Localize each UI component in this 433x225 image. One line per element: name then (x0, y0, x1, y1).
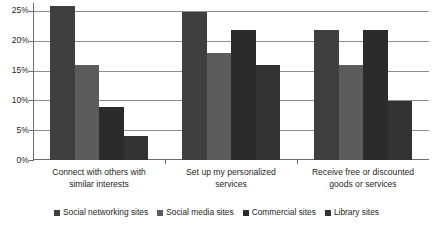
plot-area (33, 3, 429, 160)
x-axis-category-label-2-line-0: Receive free or discounted (297, 167, 429, 179)
y-tick-mark-0 (29, 160, 34, 161)
x-axis-category-label-1: Set up my personalized services (165, 167, 297, 190)
bar (388, 101, 413, 160)
y-tick-mark-10 (29, 100, 34, 101)
bar (231, 30, 256, 160)
x-axis-category-label-1-line-1: services (165, 179, 297, 191)
bar (314, 30, 339, 160)
bar (207, 53, 232, 160)
bar (363, 30, 388, 160)
y-axis-tick-15: 15% (0, 66, 29, 75)
y-axis-tick-25: 25% (0, 6, 29, 15)
x-axis-category-label-2: Receive free or discounted goods or serv… (297, 167, 429, 190)
y-tick-mark-15 (29, 71, 34, 72)
legend-item[interactable]: Commercial sites (243, 208, 316, 217)
legend-item-label: Commercial sites (252, 208, 316, 217)
bar (256, 65, 281, 160)
x-axis-group-separator (297, 160, 298, 164)
legend-item-label: Social media sites (166, 208, 234, 217)
y-axis-tick-5: 5% (0, 126, 29, 135)
bar (99, 107, 124, 160)
chart-legend: Social networking sitesSocial media site… (0, 208, 433, 217)
bar (182, 12, 207, 160)
legend-item-label: Social networking sites (63, 208, 148, 217)
y-axis-tick-20: 20% (0, 36, 29, 45)
legend-item-label: Library sites (334, 208, 379, 217)
gridline-25 (33, 11, 429, 12)
x-axis-category-label-2-line-1: goods or services (297, 179, 429, 191)
legend-swatch-icon (243, 210, 249, 216)
bar (50, 6, 75, 160)
bar (339, 65, 364, 160)
bar-chart: 25% 20% 15% 10% 5% 0% Connect with other… (0, 0, 433, 225)
legend-swatch-icon (325, 210, 331, 216)
y-axis-tick-0: 0% (0, 156, 29, 165)
x-axis-category-label-0: Connect with others with similar interes… (33, 167, 165, 190)
x-axis-category-label-0-line-1: similar interests (33, 179, 165, 191)
y-axis-tick-10: 10% (0, 96, 29, 105)
y-tick-mark-25 (29, 11, 34, 12)
x-axis-group-separator (165, 160, 166, 164)
bar (124, 136, 149, 160)
legend-swatch-icon (157, 210, 163, 216)
legend-item[interactable]: Social networking sites (54, 208, 148, 217)
legend-swatch-icon (54, 210, 60, 216)
x-axis-category-label-1-line-0: Set up my personalized (165, 167, 297, 179)
legend-item[interactable]: Social media sites (157, 208, 234, 217)
bar (75, 65, 100, 160)
y-tick-mark-20 (29, 41, 34, 42)
x-axis-category-label-0-line-0: Connect with others with (33, 167, 165, 179)
legend-item[interactable]: Library sites (325, 208, 379, 217)
y-tick-mark-5 (29, 130, 34, 131)
